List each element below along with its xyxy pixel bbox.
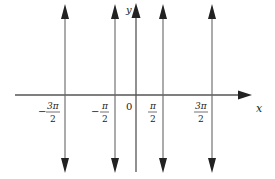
y-axis: y 0 — [125, 3, 141, 172]
x-axis-label: x — [256, 102, 263, 115]
arrow-up-icon — [61, 4, 69, 19]
tick-label-numerator: 3π — [47, 101, 60, 111]
asymptote-neg-3pi-2: − 3π 2 — [38, 4, 69, 173]
tick-label-denominator: 2 — [102, 114, 108, 124]
tick-label-numerator: 3π — [195, 101, 208, 111]
arrow-up-icon — [111, 4, 119, 19]
tick-label-denominator: 2 — [150, 114, 156, 124]
asymptote-3pi-2: 3π 2 — [194, 4, 216, 173]
tick-label-numerator: π — [149, 101, 157, 111]
tick-label-sign: − — [91, 106, 99, 117]
asymptote-pi-2: π 2 — [148, 4, 167, 173]
y-axis-label: y — [125, 4, 132, 15]
arrow-down-icon — [159, 158, 167, 173]
arrow-down-icon — [61, 158, 69, 173]
arrow-down-icon — [208, 158, 216, 173]
tick-label-numerator: π — [101, 101, 109, 111]
tick-label-denominator: 2 — [50, 114, 56, 124]
y-axis-arrow-icon — [132, 3, 141, 18]
tick-label-sign: − — [38, 106, 46, 117]
tick-label-denominator: 2 — [198, 114, 204, 124]
x-axis-arrow-icon — [238, 91, 252, 100]
diagram-canvas: x y 0 − 3π 2 − π 2 — [0, 0, 275, 179]
arrow-up-icon — [159, 4, 167, 19]
asymptote-neg-pi-2: − π 2 — [91, 4, 119, 173]
arrow-up-icon — [208, 4, 216, 19]
arrow-down-icon — [111, 158, 119, 173]
origin-label: 0 — [126, 101, 132, 112]
